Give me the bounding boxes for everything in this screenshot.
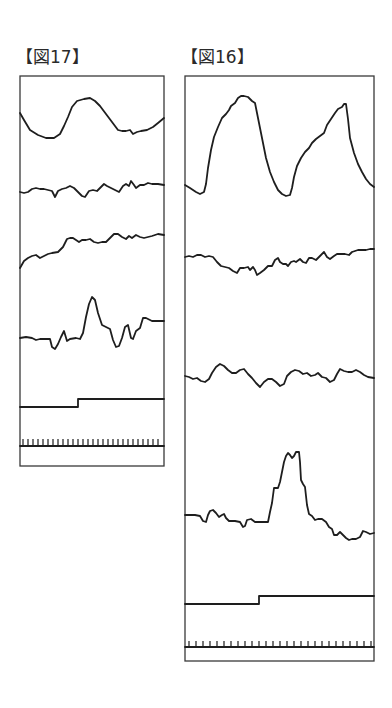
waveform-diagram (0, 0, 392, 708)
fig17-step-signal (20, 399, 164, 407)
fig17-waveform-3 (20, 234, 164, 268)
fig16-waveform-4 (185, 452, 374, 540)
figure-16-frame (185, 76, 374, 661)
figure-17-panel (20, 76, 164, 466)
fig17-waveform-2 (20, 181, 164, 197)
fig16-waveform-1 (185, 96, 374, 196)
fig17-timing-ticks (20, 439, 164, 446)
figure-16-panel (185, 76, 374, 661)
fig17-waveform-4 (20, 297, 164, 349)
fig16-waveform-3 (185, 364, 374, 387)
fig16-timing-ticks (185, 641, 374, 647)
fig17-waveform-1 (20, 98, 164, 138)
fig17-tick-marks (23, 439, 158, 446)
fig16-waveform-2 (185, 249, 374, 275)
fig16-step-signal (185, 596, 374, 604)
